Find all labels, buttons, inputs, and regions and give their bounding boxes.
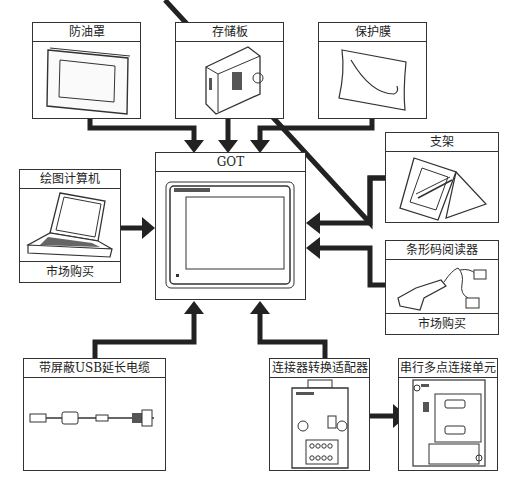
protective-film-box: 保护膜 <box>318 22 427 119</box>
connector-adapter-label: 连接器转换适配器 <box>270 359 369 378</box>
serial-unit-illustration <box>399 378 497 470</box>
drawing-computer-label: 绘图计算机 <box>20 170 120 189</box>
barcode-reader-illustration <box>386 260 498 314</box>
got-unit-box: GOT <box>155 152 306 300</box>
drawing-computer-footer: 市场购买 <box>20 261 120 282</box>
oil-cover-box: 防油罩 <box>32 22 141 119</box>
serial-multidrop-unit-box: 串行多点连接单元 <box>398 358 498 471</box>
drawing-computer-box: 绘图计算机 市场购买 <box>19 169 121 283</box>
barcode-reader-footer: 市场购买 <box>386 313 498 334</box>
serial-multidrop-unit-label: 串行多点连接单元 <box>399 359 497 378</box>
stand-label: 支架 <box>386 133 498 152</box>
oil-cover-label: 防油罩 <box>33 23 140 42</box>
usb-cable-illustration <box>24 378 164 468</box>
got-panel-illustration <box>156 172 304 298</box>
connector-adapter-illustration <box>270 378 368 470</box>
got-title: GOT <box>156 153 305 172</box>
memory-board-illustration <box>176 42 282 118</box>
laptop-illustration <box>20 189 120 261</box>
stand-box: 支架 <box>385 132 499 223</box>
protective-film-illustration <box>319 42 425 118</box>
stand-illustration <box>386 152 498 222</box>
usb-cable-box: 带屏蔽USB延长电缆 <box>23 358 166 471</box>
protective-film-label: 保护膜 <box>319 23 426 42</box>
memory-board-box: 存储板 <box>175 22 284 119</box>
memory-board-label: 存储板 <box>176 23 283 42</box>
connector-adapter-box: 连接器转换适配器 <box>269 358 370 471</box>
barcode-reader-label: 条形码阅读器 <box>386 241 498 260</box>
barcode-reader-box: 条形码阅读器 市场购买 <box>385 240 499 335</box>
usb-cable-label: 带屏蔽USB延长电缆 <box>24 359 165 378</box>
oil-cover-illustration <box>33 42 139 118</box>
